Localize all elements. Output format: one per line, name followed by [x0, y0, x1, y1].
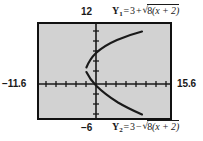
window-xmin-label: −11.6: [2, 78, 26, 89]
curve-y1: [86, 32, 142, 68]
equation-y1-equals: =: [123, 5, 131, 16]
equation-y1-label: Y1=3+√8(x + 2): [112, 5, 179, 18]
equation-y1-radical: √8(x + 2): [143, 5, 180, 16]
graph-plot-inner: [39, 24, 170, 118]
equation-y1-operator: +: [135, 5, 143, 16]
curve-y2: [86, 72, 142, 115]
equation-y2-label: Y2=3−√8(x + 2): [112, 121, 179, 134]
equation-y2-equals: =: [123, 121, 131, 132]
calculator-graph-figure: 12 Y1=3+√8(x + 2): [0, 0, 203, 141]
equation-y2-radicand-body: (x + 2): [152, 121, 179, 132]
window-ymin-label: −6: [81, 122, 92, 133]
graph-canvas: [39, 24, 170, 118]
equation-y2-operator: −: [135, 121, 143, 132]
equation-y2-radical: √8(x + 2): [143, 121, 180, 132]
window-xmax-label: 15.6: [177, 78, 196, 89]
window-ymax-label: 12: [81, 6, 92, 17]
equation-y2-radicand: 8(x + 2): [147, 120, 179, 132]
equation-y1-radicand: 8(x + 2): [147, 4, 179, 16]
graph-plot-area[interactable]: [37, 22, 172, 120]
equation-y1-radicand-body: (x + 2): [152, 5, 179, 16]
